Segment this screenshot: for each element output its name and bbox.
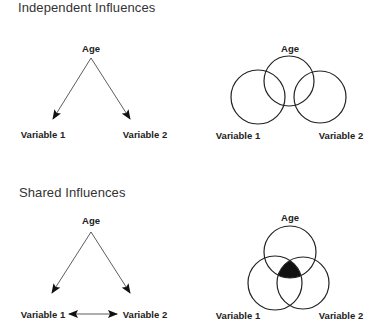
venn-label-age: Age	[281, 212, 299, 223]
node-age: Age	[82, 215, 100, 226]
arrow-diagram-independent: Age Variable 1 Variable 2	[21, 43, 167, 140]
venn-label-age: Age	[281, 43, 299, 54]
venn-circle-variable-2	[294, 71, 346, 123]
arrow-age-to-variable-2	[91, 58, 130, 119]
venn-label-variable-1: Variable 1	[216, 310, 261, 321]
node-variable-2: Variable 2	[123, 309, 167, 320]
venn-label-variable-1: Variable 1	[216, 130, 261, 141]
venn-diagram-independent: Age Variable 1 Variable 2	[216, 43, 363, 141]
node-variable-1: Variable 1	[21, 129, 66, 140]
venn-diagram-shared: Age Variable 1 Variable 2	[216, 212, 363, 321]
arrow-age-to-variable-1	[52, 232, 91, 293]
venn-circle-variable-1	[248, 256, 302, 310]
node-age: Age	[82, 43, 100, 54]
node-variable-1: Variable 1	[21, 309, 66, 320]
venn-label-variable-2: Variable 2	[319, 130, 363, 141]
arrow-age-to-variable-1	[53, 58, 91, 119]
arrow-diagram-shared: Age Variable 1 Variable 2	[21, 215, 167, 320]
venn-circle-age	[264, 56, 314, 106]
arrow-age-to-variable-2	[91, 232, 130, 293]
node-variable-2: Variable 2	[123, 129, 167, 140]
diagram-canvas: Age Variable 1 Variable 2 Age Variable 1…	[0, 0, 386, 335]
venn-circle-variable-1	[231, 70, 285, 124]
venn-label-variable-2: Variable 2	[319, 310, 363, 321]
venn-circle-variable-2	[277, 257, 329, 309]
